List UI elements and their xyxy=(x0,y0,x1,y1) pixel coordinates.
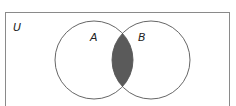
venn-diagram: U A B xyxy=(0,0,236,106)
set-a-label: A xyxy=(89,31,98,44)
set-b-label: B xyxy=(138,31,146,44)
universe-label: U xyxy=(13,21,21,34)
